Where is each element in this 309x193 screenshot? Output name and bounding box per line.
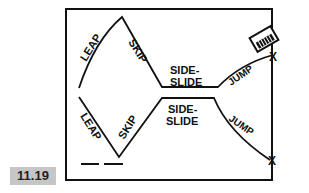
movement-pattern-diagram: LEAP SKIP SIDE- SLIDE JUMP X LEAP SKIP S… — [0, 0, 309, 193]
label-slide-top: SLIDE — [170, 76, 202, 88]
label-jump-top: JUMP — [226, 63, 255, 88]
end-mark-top: X — [269, 50, 277, 64]
label-skip-top: SKIP — [126, 37, 150, 65]
xylophone-icon — [250, 26, 279, 52]
label-side-bottom: SIDE- — [168, 103, 198, 115]
label-leap-bottom: LEAP — [78, 111, 104, 142]
end-mark-bottom: X — [268, 154, 276, 168]
label-side-top: SIDE- — [170, 64, 200, 76]
label-slide-bottom: SLIDE — [166, 115, 198, 127]
figure-number-badge: 11.19 — [10, 167, 56, 185]
label-leap-top: LEAP — [78, 32, 104, 63]
label-skip-bottom: SKIP — [116, 113, 140, 141]
